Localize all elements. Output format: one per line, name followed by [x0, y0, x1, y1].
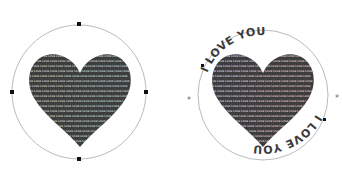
svg-text:Love Love Love Love Love Love: Love Love Love Love Love Love Love Love …	[26, 59, 130, 63]
path-start-marker[interactable]: *	[187, 96, 191, 105]
handle-left[interactable]	[10, 90, 14, 94]
path-handle-upper-left[interactable]	[201, 64, 204, 67]
handle-right[interactable]	[144, 90, 148, 94]
svg-text:Love Love Love Love Love Love: Love Love Love Love Love Love Love Love …	[209, 59, 313, 63]
svg-text:Love Love Love Love Love Love: Love Love Love Love Love Love Love Love …	[209, 119, 313, 123]
svg-text:Love Love Love Love Love Love: Love Love Love Love Love Love Love Love …	[24, 94, 128, 98]
handle-bottom[interactable]	[77, 157, 81, 161]
svg-text:Love Love Love Love Love Love: Love Love Love Love Love Love Love Love …	[209, 109, 313, 113]
svg-text:Love Love Love Love Love Love: Love Love Love Love Love Love Love Love …	[207, 64, 311, 68]
svg-text:Love Love Love Love Love Love: Love Love Love Love Love Love Love Love …	[207, 94, 311, 98]
svg-text:Love Love Love Love Love Love: Love Love Love Love Love Love Love Love …	[207, 104, 311, 108]
svg-text:Love Love Love Love Love Love: Love Love Love Love Love Love Love Love …	[24, 64, 128, 68]
svg-text:Love Love Love Love Love Love: Love Love Love Love Love Love Love Love …	[26, 119, 130, 123]
svg-text:Love Love Love Love Love Love: Love Love Love Love Love Love Love Love …	[26, 129, 130, 133]
svg-text:Love Love Love Love Love Love: Love Love Love Love Love Love Love Love …	[26, 109, 130, 113]
path-end-marker[interactable]: *	[335, 94, 339, 103]
left-figure: Love Love Love Love Love Love Love Love …	[10, 22, 148, 161]
svg-text:Love Love Love Love Love Love: Love Love Love Love Love Love Love Love …	[24, 74, 128, 78]
svg-text:Love Love Love Love Love Love: Love Love Love Love Love Love Love Love …	[207, 84, 311, 88]
svg-text:Love Love Love Love Love Love: Love Love Love Love Love Love Love Love …	[24, 54, 128, 58]
svg-text:Love Love Love Love Love Love: Love Love Love Love Love Love Love Love …	[209, 99, 313, 103]
svg-text:Love Love Love Love Love Love: Love Love Love Love Love Love Love Love …	[24, 114, 128, 118]
svg-text:Love Love Love Love Love Love: Love Love Love Love Love Love Love Love …	[207, 124, 311, 128]
path-handle-lower-right[interactable]	[323, 118, 326, 121]
heart-fill-text: Love Love Love Love Love Love Love Love …	[24, 54, 130, 143]
svg-text:Love Love Love Love Love Love: Love Love Love Love Love Love Love Love …	[209, 89, 313, 93]
svg-text:Love Love Love Love Love Love: Love Love Love Love Love Love Love Love …	[26, 139, 130, 143]
svg-text:Love Love Love Love Love Love: Love Love Love Love Love Love Love Love …	[26, 89, 130, 93]
svg-text:Love Love Love Love Love Love: Love Love Love Love Love Love Love Love …	[209, 79, 313, 83]
svg-text:Love Love Love Love Love Love: Love Love Love Love Love Love Love Love …	[24, 84, 128, 88]
right-figure: Love Love Love Love Love Love Love Love …	[187, 25, 339, 160]
svg-text:Love Love Love Love Love Love: Love Love Love Love Love Love Love Love …	[24, 104, 128, 108]
canvas: Love Love Love Love Love Love Love Love …	[0, 0, 342, 180]
handle-top[interactable]	[77, 22, 81, 26]
svg-text:Love Love Love Love Love Love: Love Love Love Love Love Love Love Love …	[26, 99, 130, 103]
svg-text:Love Love Love Love Love Love: Love Love Love Love Love Love Love Love …	[209, 69, 313, 73]
heart-fill-text: Love Love Love Love Love Love Love Love …	[207, 54, 313, 143]
svg-text:Love Love Love Love Love Love: Love Love Love Love Love Love Love Love …	[24, 124, 128, 128]
svg-text:Love Love Love Love Love Love: Love Love Love Love Love Love Love Love …	[207, 74, 311, 78]
svg-text:Love Love Love Love Love Love: Love Love Love Love Love Love Love Love …	[24, 134, 128, 138]
svg-text:Love Love Love Love Love Love: Love Love Love Love Love Love Love Love …	[26, 69, 130, 73]
svg-text:Love Love Love Love Love Love: Love Love Love Love Love Love Love Love …	[207, 114, 311, 118]
svg-text:Love Love Love Love Love Love: Love Love Love Love Love Love Love Love …	[26, 79, 130, 83]
